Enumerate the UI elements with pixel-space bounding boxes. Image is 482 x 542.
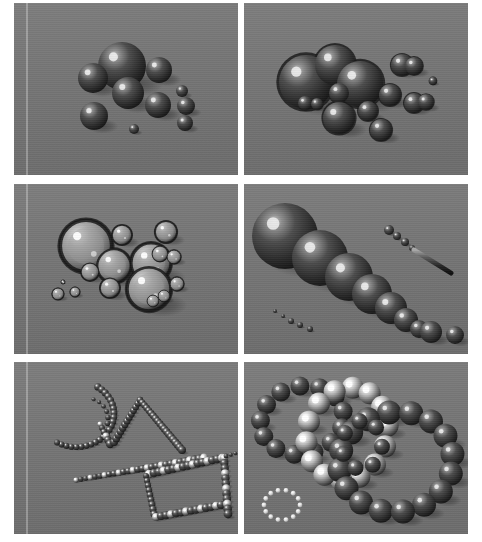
render-grid-sheet xyxy=(0,0,482,542)
render-panel-tapered-sphere-chain xyxy=(244,184,468,354)
panel-canvas-particle-trail-wireframe xyxy=(14,362,238,534)
panel-canvas-transparent-bubbles-cluster xyxy=(14,184,238,354)
render-panel-merged-blobs-cluster xyxy=(244,3,468,175)
render-panel-interlocking-sphere-rings xyxy=(244,362,468,534)
panel-canvas-tapered-sphere-chain xyxy=(244,184,468,354)
panel-canvas-merged-blobs-cluster xyxy=(244,3,468,175)
render-panel-transparent-bubbles-cluster xyxy=(14,184,238,354)
render-panel-opaque-spheres-cluster xyxy=(14,3,238,175)
panel-canvas-interlocking-sphere-rings xyxy=(244,362,468,534)
panel-canvas-opaque-spheres-cluster xyxy=(14,3,238,175)
render-panel-particle-trail-wireframe xyxy=(14,362,238,534)
